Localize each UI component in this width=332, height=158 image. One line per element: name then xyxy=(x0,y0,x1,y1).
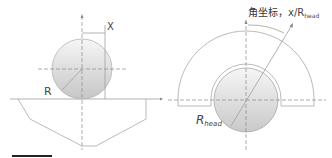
centerline-arrow-icon xyxy=(81,14,84,18)
radius-label-r: R xyxy=(196,113,204,127)
label-x: X xyxy=(107,21,114,32)
label-r: R xyxy=(44,85,52,98)
radius-label-sub: head xyxy=(204,120,222,128)
angle-label-var: x/R xyxy=(288,7,304,18)
angle-label: 角坐标，x/Rhead xyxy=(248,7,319,19)
left-figure: X R xyxy=(10,14,163,150)
angle-label-cn: 角坐标， xyxy=(248,7,288,18)
baseline-arrow-icon xyxy=(160,98,163,101)
vertical-arrow-icon xyxy=(245,20,248,24)
right-figure: 角坐标，x/Rhead Rhead xyxy=(168,7,326,152)
diagonal-arrow-icon xyxy=(290,23,294,28)
diagram-canvas: X R 角坐标，x/Rhead Rhead xyxy=(0,0,332,158)
angle-arc xyxy=(248,25,284,33)
legend-bar xyxy=(12,155,52,157)
angle-label-sub: head xyxy=(304,12,319,19)
